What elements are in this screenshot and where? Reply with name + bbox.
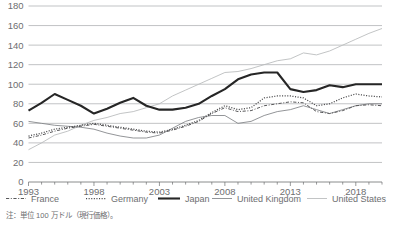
y-axis-tick-label: 180 [8,0,24,11]
x-axis-tick-label: 2003 [149,186,170,197]
y-axis-tick-label: 40 [13,137,24,148]
gridlines [29,6,383,162]
y-axis-tick-label: 20 [13,157,24,168]
note-text: 注：単位 100 万ドル（現行価格）。 [6,210,117,220]
chart-legend: FranceGermanyJapanUnited KingdomUnited S… [6,194,387,204]
y-axis-tick-label: 80 [13,98,24,109]
y-axis-tick-label: 60 [13,118,24,129]
legend-label-germany: Germany [111,194,149,204]
y-axis-tick-labels: 180160140120100806040200 [8,0,24,187]
series-line-united-kingdom [29,104,383,138]
x-axis-tick-label: 2008 [214,186,235,197]
line-chart: 180160140120100806040200 199319982003200… [0,0,407,226]
legend-label-japan: Japan [185,194,210,204]
legend-label-united-kingdom: United Kingdom [237,194,301,204]
y-axis-tick-label: 140 [8,40,24,51]
x-axis-tick-label: 1998 [83,186,104,197]
series-line-united-states [29,28,383,149]
chart-container: 180160140120100806040200 199319982003200… [0,0,407,226]
x-axis [29,182,383,186]
series-line-japan [29,72,383,113]
legend-label-france: France [31,194,59,204]
chart-note: 注：単位 100 万ドル（現行価格）。 [6,210,117,220]
y-axis-tick-label: 160 [8,20,24,31]
data-series [29,28,383,149]
y-axis-tick-label: 120 [8,59,24,70]
y-axis-tick-label: 100 [8,79,24,90]
legend-label-united-states: United States [332,194,387,204]
